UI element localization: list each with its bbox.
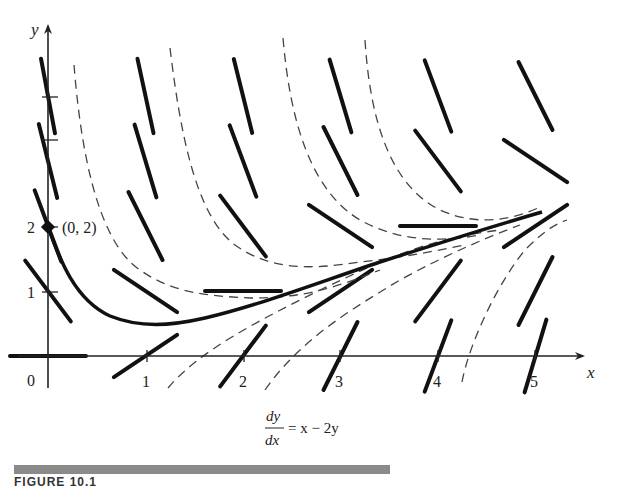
dashed-curve-2 <box>170 48 465 267</box>
solution-curve <box>48 212 542 325</box>
slope-segment <box>324 127 358 195</box>
slope-segment <box>129 192 163 260</box>
x-tick-label-3: 3 <box>335 373 343 390</box>
x-tick-label-4: 4 <box>433 373 441 390</box>
dashed-curve-7 <box>462 220 567 382</box>
slope-segment <box>220 196 266 257</box>
x-tick-label-1: 1 <box>142 373 150 390</box>
slope-segment <box>425 60 452 131</box>
dashed-curve-6 <box>265 225 520 390</box>
equation-denominator: dx <box>265 432 280 448</box>
slope-segment <box>234 59 252 133</box>
slope-segment <box>415 131 461 192</box>
slope-segment <box>504 205 567 247</box>
equation: dy dx = x − 2y <box>265 408 339 448</box>
y-tick-label-2: 2 <box>27 219 35 236</box>
x-tick-label-5: 5 <box>530 373 538 390</box>
slope-segment <box>114 270 177 312</box>
dashed-curve-1 <box>74 65 380 298</box>
y-tick-label-1: 1 <box>27 284 35 301</box>
y-axis-label: y <box>29 20 39 39</box>
equation-rhs: = x − 2y <box>288 420 339 436</box>
slope-segment <box>230 125 257 196</box>
slope-segment <box>309 205 372 247</box>
slope-segment <box>138 59 154 133</box>
slope-segment <box>519 62 553 130</box>
slope-segment <box>415 261 461 322</box>
slope-segment <box>519 257 553 325</box>
dashed-curve-5 <box>168 230 500 388</box>
initial-point-label: (0, 2) <box>62 219 97 237</box>
x-axis-label: x <box>586 363 595 382</box>
slope-segment <box>504 140 567 182</box>
slope-segment <box>135 125 157 198</box>
x-tick-label-2: 2 <box>239 373 247 390</box>
caption-rule <box>14 465 390 474</box>
figure-caption: FIGURE 10.1 <box>14 476 97 488</box>
slope-segment <box>330 60 352 133</box>
origin-label: 0 <box>27 372 35 389</box>
equation-numerator: dy <box>266 408 281 424</box>
initial-point-marker <box>41 220 55 234</box>
